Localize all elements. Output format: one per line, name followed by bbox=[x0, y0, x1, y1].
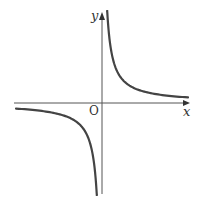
x-axis-label: x bbox=[183, 104, 191, 119]
hyperbola-branch-quadrant-1 bbox=[107, 11, 188, 97]
hyperbola-graph: y x O bbox=[0, 0, 203, 211]
y-axis-arrow-icon bbox=[99, 12, 105, 20]
hyperbola-branch-quadrant-3 bbox=[16, 109, 97, 195]
origin-label: O bbox=[89, 104, 99, 118]
y-axis-label: y bbox=[90, 8, 99, 23]
